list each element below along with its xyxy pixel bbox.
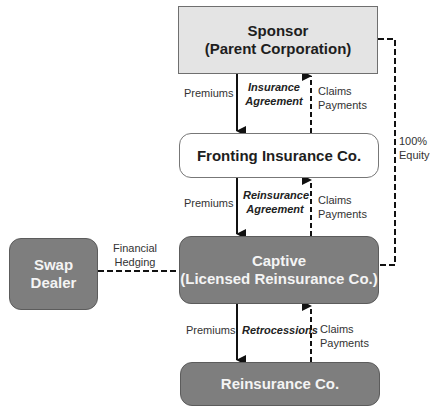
hedging-label: Financial Hedging <box>113 241 157 270</box>
swap-title-2: Dealer <box>31 274 77 292</box>
reinsurance-agreement-label: Reinsurance Agreement <box>243 188 307 217</box>
claims-label-line2: Payments <box>318 98 367 112</box>
premiums-label-3: Premiums <box>186 323 236 337</box>
claims-label-line2: Payments <box>318 207 367 221</box>
reinsurance-title: Reinsurance Co. <box>221 375 339 393</box>
fronting-title: Fronting Insurance Co. <box>197 147 361 165</box>
sponsor-title: Sponsor <box>248 22 309 40</box>
claims-label-3: Claims Payments <box>320 322 369 351</box>
captive-subtitle: (Licensed Reinsurance Co.) <box>180 270 378 288</box>
premiums-label-1: Premiums <box>184 86 234 100</box>
agreement-label-line1: Reinsurance <box>243 188 307 202</box>
equity-label-line2: Equity <box>399 148 430 162</box>
claims-label-2: Claims Payments <box>318 193 367 222</box>
premiums-label-2: Premiums <box>184 196 234 210</box>
claims-label-1: Claims Payments <box>318 84 367 113</box>
claims-label-line1: Claims <box>318 84 367 98</box>
swap-title-1: Swap <box>34 256 73 274</box>
equity-label-line1: 100% <box>399 134 430 148</box>
hedging-label-line1: Financial <box>113 241 157 255</box>
agreement-label-line2: Agreement <box>244 94 304 108</box>
captive-title: Captive <box>252 252 306 270</box>
hedging-label-line2: Hedging <box>113 255 157 269</box>
sponsor-subtitle: (Parent Corporation) <box>205 40 352 58</box>
insurance-agreement-label: Insurance Agreement <box>244 80 304 109</box>
agreement-label-line2: Agreement <box>243 202 307 216</box>
captive-node: Captive (Licensed Reinsurance Co.) <box>179 236 379 304</box>
claims-label-line1: Claims <box>318 193 367 207</box>
agreement-label-line1: Insurance <box>244 80 304 94</box>
swap-dealer-node: Swap Dealer <box>9 238 98 310</box>
reinsurance-node: Reinsurance Co. <box>180 362 380 406</box>
equity-label: 100% Equity <box>399 134 430 163</box>
equity-connector <box>378 39 395 265</box>
fronting-node: Fronting Insurance Co. <box>179 133 379 178</box>
sponsor-node: Sponsor (Parent Corporation) <box>178 6 378 74</box>
claims-label-line1: Claims <box>320 322 369 336</box>
retrocessions-label: Retrocessions <box>242 323 308 337</box>
claims-label-line2: Payments <box>320 336 369 350</box>
